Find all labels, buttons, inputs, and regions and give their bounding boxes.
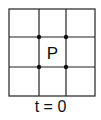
center-label: P bbox=[47, 44, 58, 63]
node-dot-top-right bbox=[64, 35, 68, 39]
time-label: t = 0 bbox=[0, 98, 101, 116]
node-dot-bottom-right bbox=[64, 65, 68, 69]
node-dot-bottom-left bbox=[37, 65, 41, 69]
node-dot-top-left bbox=[37, 35, 41, 39]
